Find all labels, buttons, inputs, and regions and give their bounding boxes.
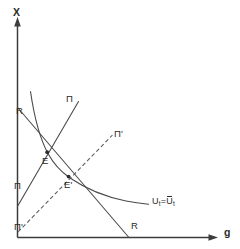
point-E-prime-marker xyxy=(67,175,71,179)
label-E: E xyxy=(42,156,49,166)
diagram-canvas xyxy=(0,0,240,249)
label-indifference-curve: Ut=Ut xyxy=(152,197,175,206)
curve-R xyxy=(18,108,129,237)
label-pi-lower-left: Π xyxy=(14,181,21,191)
economic-diagram-figure: X g R R Π Π Π' Π' E E' Ut=Ut xyxy=(0,0,240,249)
label-pi-prime-upper: Π' xyxy=(114,129,123,139)
curve-indifference-ut xyxy=(31,92,149,205)
label-ubar: U xyxy=(166,197,173,206)
x-axis-label: g xyxy=(224,227,231,238)
x-axis-arrowhead xyxy=(209,234,219,241)
label-u: U xyxy=(152,196,159,206)
label-R-lower: R xyxy=(131,221,138,231)
y-axis-arrowhead xyxy=(14,17,21,27)
label-pi-prime-lower-left: Π' xyxy=(14,222,23,232)
label-R-upper: R xyxy=(16,106,23,116)
label-E-prime: E' xyxy=(64,180,73,190)
label-pi-upper: Π xyxy=(66,94,73,104)
label-u-subscript: t xyxy=(159,200,161,207)
label-ubar-subscript: t xyxy=(173,200,175,207)
y-axis-label: X xyxy=(13,7,20,18)
point-E-marker xyxy=(45,150,49,154)
